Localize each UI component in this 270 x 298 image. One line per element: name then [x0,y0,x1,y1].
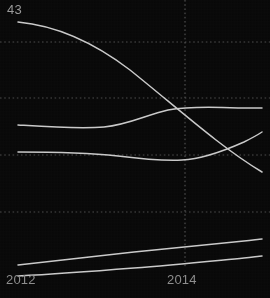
x-axis-tick-label-2012: 2012 [6,272,36,287]
chart-plot-area [0,0,270,298]
series-line-5 [18,256,262,276]
series-line-4 [18,239,262,265]
series-line-2 [18,107,262,128]
x-axis-tick-label-2014: 2014 [167,272,197,287]
series-line-3 [18,132,262,160]
series-lines [18,22,262,276]
y-axis-max-label: 43 [7,2,22,17]
line-chart: 43 2012 2014 [0,0,270,298]
